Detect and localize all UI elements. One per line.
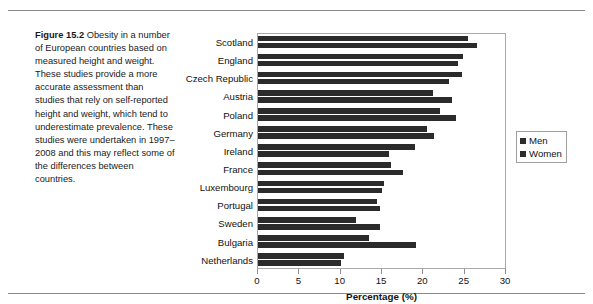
chart-row: England [184,51,506,69]
x-axis-tick-label: 30 [500,275,511,286]
y-axis-category-label: France [223,164,253,175]
x-axis-tick-label: 5 [296,275,301,286]
x-axis-tick-label: 20 [417,275,428,286]
x-axis-tick-labels: 051015202530 [257,275,506,289]
x-axis-tick-marks [257,269,506,274]
x-axis-tick-label: 10 [334,275,345,286]
x-axis-tick [422,269,423,274]
bar-group [258,160,506,178]
chart-row: Portugal [184,196,506,214]
bar-group [258,51,506,69]
chart-row: Netherlands [184,251,506,269]
chart-legend: MenWomen [516,131,567,163]
figure-caption-label: Figure 15.2 [35,30,84,40]
bar-women [258,206,380,212]
x-axis-tick-label: 25 [458,275,469,286]
bar-men [258,90,433,96]
y-axis-category-label: Czech Republic [186,73,253,84]
x-axis-tick [381,269,382,274]
bar-men [258,217,356,223]
bar-men [258,54,463,60]
bar-men [258,36,468,42]
bar-women [258,61,458,67]
bar-group [258,251,506,269]
x-axis-tick [505,269,506,274]
figure-frame: Figure 15.2 Obesity in a number of Europ… [8,10,585,294]
bar-women [258,151,389,157]
bar-women [258,79,449,85]
chart-row: Czech Republic [184,69,506,87]
x-axis-tick [298,269,299,274]
bar-group [258,69,506,87]
chart-row: Ireland [184,142,506,160]
y-axis-category-label: Scotland [216,37,253,48]
bar-women [258,224,380,230]
y-axis-category-label: Austria [223,91,253,102]
x-axis-tick [340,269,341,274]
bar-women [258,188,382,194]
legend-swatch-icon [520,151,526,157]
chart-row: France [184,160,506,178]
y-axis-category-label: Germany [214,127,253,138]
figure-caption: Figure 15.2 Obesity in a number of Europ… [35,29,175,186]
y-axis-category-label: Ireland [224,145,253,156]
bar-women [258,97,452,103]
legend-swatch-icon [520,138,526,144]
bar-women [258,170,403,176]
legend-item-women[interactable]: Women [520,147,562,160]
bar-group [258,214,506,232]
y-axis-category-label: Netherlands [201,254,253,265]
figure-caption-text: Obesity in a number of European countrie… [35,30,175,184]
chart-row: Bulgaria [184,233,506,251]
bar-men [258,72,462,78]
bar-women [258,115,456,121]
bar-men [258,126,427,132]
chart-row: Germany [184,124,506,142]
x-axis-title: Percentage (%) [257,291,506,302]
y-axis-category-label: Sweden [218,218,253,229]
legend-item-men[interactable]: Men [520,134,562,147]
bar-men [258,253,344,259]
bar-women [258,43,477,49]
bar-men [258,108,440,114]
legend-label: Women [529,149,562,159]
chart-row: Sweden [184,214,506,232]
chart-row: Scotland [184,33,506,51]
chart-rows: ScotlandEnglandCzech RepublicAustriaPola… [184,33,506,269]
y-axis-category-label: Bulgaria [218,236,253,247]
y-axis-category-label: Luxembourg [200,182,253,193]
chart-row: Luxembourg [184,178,506,196]
bar-women [258,133,434,139]
bar-men [258,235,369,241]
bar-group [258,196,506,214]
chart-row: Austria [184,87,506,105]
legend-label: Men [529,136,548,146]
bar-group [258,106,506,124]
y-axis-category-label: Poland [223,109,253,120]
chart-row: Poland [184,106,506,124]
y-axis-category-label: Portugal [217,200,253,211]
y-axis-category-label: England [218,55,253,66]
x-axis-tick-label: 15 [376,275,387,286]
bar-group [258,87,506,105]
bar-group [258,233,506,251]
bar-men [258,181,384,187]
bar-group [258,178,506,196]
bar-men [258,144,415,150]
bar-men [258,162,391,168]
bar-chart: ScotlandEnglandCzech RepublicAustriaPola… [184,27,584,299]
bar-group [258,124,506,142]
x-axis-tick-label: 0 [254,275,259,286]
bar-men [258,199,377,205]
bar-group [258,142,506,160]
bar-women [258,260,341,266]
bar-group [258,33,506,51]
x-axis-tick [257,269,258,274]
x-axis-tick [464,269,465,274]
bar-women [258,242,416,248]
